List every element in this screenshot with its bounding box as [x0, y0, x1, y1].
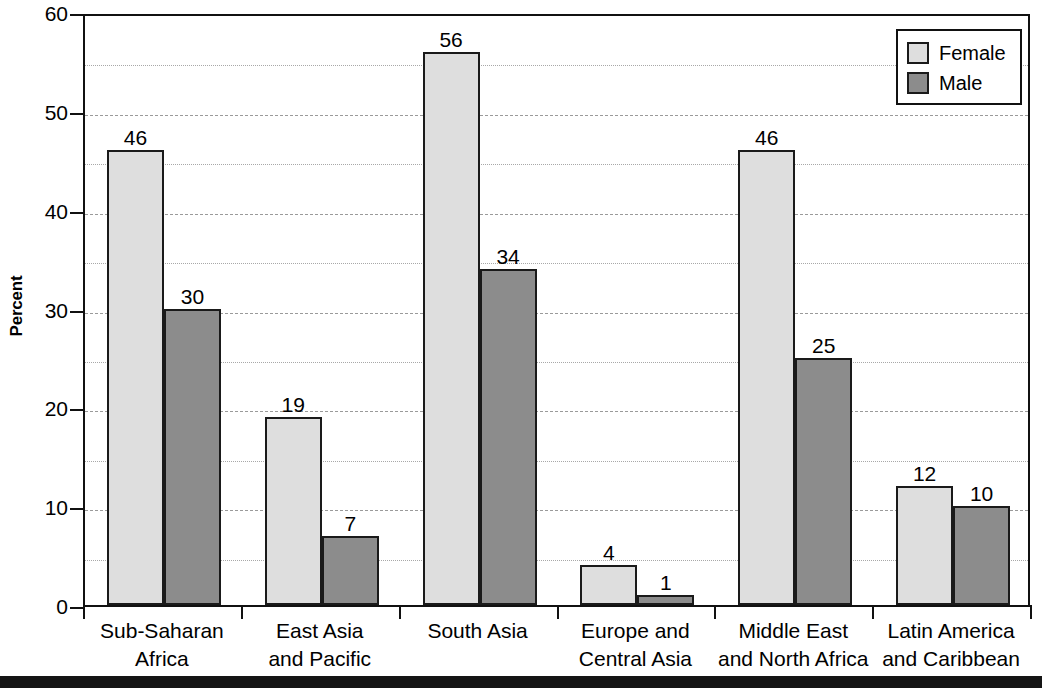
female-swatch — [907, 42, 929, 64]
plot-area: 463019756344146251210 — [83, 14, 1030, 607]
legend-item-label: Male — [939, 73, 982, 93]
bar-male — [953, 506, 1010, 605]
legend-item: Male — [907, 68, 1020, 98]
x-axis-category-label-line1: Latin America — [887, 619, 1014, 642]
bar-male — [322, 536, 379, 605]
bar-female — [107, 150, 164, 605]
bar-value-label: 4 — [560, 542, 657, 563]
page-rule — [0, 676, 1042, 688]
x-axis-category-label-line1: Sub-Saharan — [100, 619, 224, 642]
bar-female — [265, 417, 322, 605]
bar-female — [738, 150, 795, 605]
y-axis-tick-mark — [70, 113, 83, 115]
bar-value-label: 30 — [144, 286, 241, 307]
y-axis-tick-mark — [70, 14, 83, 16]
gridline-major — [85, 411, 1028, 412]
x-axis-category-label: Latin Americaand Caribbean — [841, 617, 1042, 673]
gridline-major — [85, 115, 1028, 116]
gridline-major — [85, 214, 1028, 215]
bar-female — [896, 486, 953, 605]
bar-value-label: 56 — [403, 29, 500, 50]
legend: FemaleMale — [896, 29, 1022, 105]
bar-value-label: 46 — [718, 127, 815, 148]
bar-male — [480, 269, 537, 605]
bar-value-label: 25 — [775, 335, 872, 356]
y-axis-ticks — [0, 0, 83, 690]
x-axis-category-label-line1: East Asia — [276, 619, 364, 642]
bar-female — [423, 52, 480, 605]
legend-item-label: Female — [939, 43, 1006, 63]
x-axis-category-label-line2: and Caribbean — [841, 645, 1042, 673]
gridline-major — [85, 510, 1028, 511]
plot-inner: 463019756344146251210 — [85, 16, 1028, 605]
legend-item: Female — [907, 38, 1020, 68]
gridline-minor — [85, 362, 1028, 363]
bar-chart: Percent 6050403020100 463019756344146251… — [0, 0, 1042, 690]
bar-value-label: 1 — [617, 572, 714, 593]
bar-value-label: 12 — [876, 463, 973, 484]
x-axis-category-label-line1: South Asia — [427, 619, 527, 642]
gridline-minor — [85, 560, 1028, 561]
y-axis-tick-mark — [70, 409, 83, 411]
y-axis-tick-mark — [70, 311, 83, 313]
bar-male — [637, 595, 694, 605]
bar-male — [795, 358, 852, 605]
y-axis-tick-mark — [70, 508, 83, 510]
x-axis-category-label-line1: Europe and — [581, 619, 690, 642]
bar-value-label: 10 — [933, 483, 1030, 504]
gridline-minor — [85, 65, 1028, 66]
x-axis-category-labels: Sub-SaharanAfricaEast Asiaand PacificSou… — [0, 617, 1042, 682]
bar-value-label: 19 — [245, 394, 342, 415]
gridline-minor — [85, 164, 1028, 165]
bar-value-label: 7 — [302, 513, 399, 534]
bar-value-label: 46 — [87, 127, 184, 148]
bar-value-label: 34 — [460, 246, 557, 267]
gridline-minor — [85, 461, 1028, 462]
male-swatch — [907, 72, 929, 94]
x-axis-category-label-line2: and Pacific — [210, 645, 430, 673]
bar-male — [164, 309, 221, 606]
y-axis-tick-mark — [70, 212, 83, 214]
gridline-major — [85, 313, 1028, 314]
x-axis-category-label-line1: Middle East — [738, 619, 848, 642]
